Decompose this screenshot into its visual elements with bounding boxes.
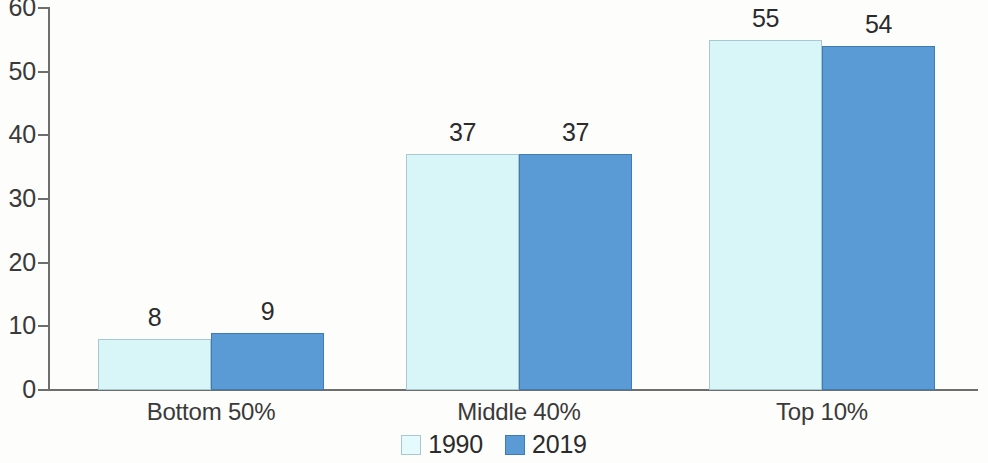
legend-label: 1990: [428, 432, 483, 457]
y-axis-tick-label: 60: [0, 0, 36, 20]
y-axis-tick-label: 30: [0, 186, 36, 211]
y-axis-tick-label: 20: [0, 250, 36, 275]
legend-swatch-icon: [505, 435, 525, 455]
y-axis-tick-label: 50: [0, 59, 36, 84]
y-axis-tick-label: 10: [0, 313, 36, 338]
bar-1990-0[interactable]: [98, 339, 211, 390]
bar-1990-2[interactable]: [709, 40, 822, 390]
bar-value-label: 9: [211, 299, 324, 324]
y-axis-tick-label: 0: [0, 377, 36, 402]
category-label-2: Top 10%: [709, 398, 935, 426]
bar-2019-0[interactable]: [211, 333, 324, 390]
bar-value-label: 37: [406, 120, 519, 145]
bar-value-label: 37: [519, 120, 632, 145]
legend-label: 2019: [532, 432, 587, 457]
bar-2019-2[interactable]: [822, 46, 935, 390]
chart-legend: 19902019: [0, 432, 988, 457]
legend-swatch-icon: [401, 435, 421, 455]
bar-2019-1[interactable]: [519, 154, 632, 390]
bar-value-label: 8: [98, 305, 211, 330]
legend-item-1990[interactable]: 1990: [401, 432, 483, 457]
y-axis-tick-label: 40: [0, 122, 36, 147]
bar-chart: 0102030405060 8937375554 Bottom 50%Middl…: [0, 0, 988, 463]
legend-item-2019[interactable]: 2019: [505, 432, 587, 457]
category-label-1: Middle 40%: [406, 398, 632, 426]
bar-1990-1[interactable]: [406, 154, 519, 390]
plot-area: 8937375554: [48, 8, 978, 390]
category-label-0: Bottom 50%: [98, 398, 324, 426]
bar-value-label: 55: [709, 6, 822, 31]
bar-value-label: 54: [822, 12, 935, 37]
